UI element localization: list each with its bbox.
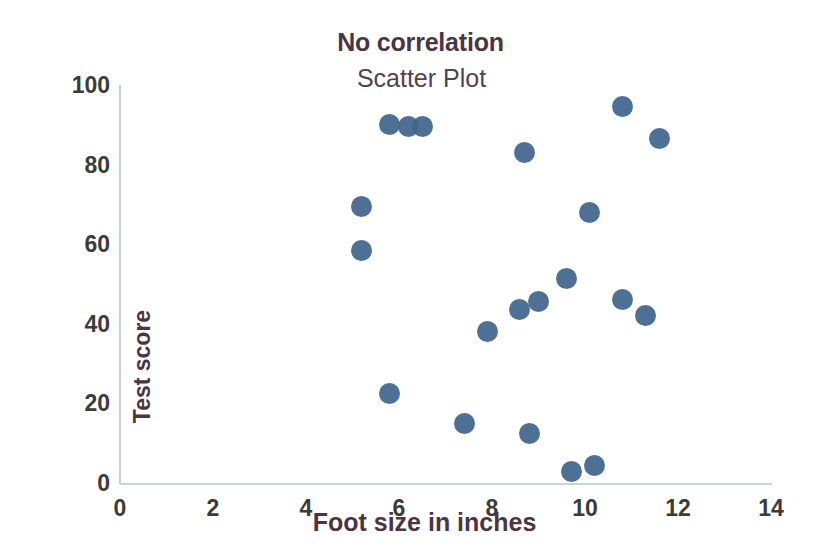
x-axis-tick-label: 14 (741, 497, 801, 520)
data-point (556, 268, 577, 289)
data-point (579, 202, 600, 223)
x-axis-tick-label: 12 (648, 497, 708, 520)
y-axis-tick-label: 40 (40, 313, 110, 336)
x-axis-tick-label: 2 (183, 497, 243, 520)
y-axis-tick-label: 100 (40, 74, 110, 97)
scatter-plot-screenshot: No correlation Scatter Plot 020406080100… (0, 0, 835, 547)
data-point (612, 96, 633, 117)
data-point (351, 196, 372, 217)
x-axis-line (120, 483, 772, 485)
data-point (412, 116, 433, 137)
data-point (528, 291, 549, 312)
x-axis-tick-label: 6 (369, 497, 429, 520)
y-axis-tick-label: 60 (40, 233, 110, 256)
x-axis-tick-label: 0 (90, 497, 150, 520)
x-axis-tick-label: 10 (555, 497, 615, 520)
data-point (519, 423, 540, 444)
data-point (477, 321, 498, 342)
y-axis-tick-labels: 020406080100 (32, 0, 110, 547)
data-point (454, 413, 475, 434)
data-point (635, 305, 656, 326)
plot-area: Test score (120, 85, 771, 483)
data-point (514, 142, 535, 163)
data-point (649, 128, 670, 149)
y-axis-tick-label: 80 (40, 154, 110, 177)
y-axis-tick-label: 20 (40, 392, 110, 415)
chart-title: No correlation (0, 28, 835, 57)
y-axis-title: Test score (129, 272, 156, 462)
x-axis-tick-label: 4 (276, 497, 336, 520)
data-point (561, 461, 582, 482)
data-point (612, 289, 633, 310)
x-axis-tick-label: 8 (462, 497, 522, 520)
data-point (351, 240, 372, 261)
data-point (584, 455, 605, 476)
y-axis-tick-label: 0 (40, 472, 110, 495)
data-point (379, 383, 400, 404)
